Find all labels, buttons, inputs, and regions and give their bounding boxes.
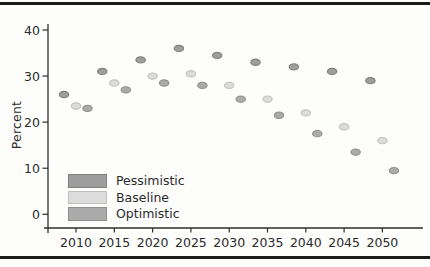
y-axis-title: Percent: [9, 101, 24, 149]
marker-baseline: [186, 71, 195, 77]
legend-swatch-baseline: [68, 191, 107, 205]
marker-baseline: [301, 110, 310, 116]
marker-optimistic: [351, 149, 360, 155]
marker-pessimistic: [174, 45, 183, 51]
legend-item-optimistic: Optimistic: [68, 207, 185, 221]
y-tick-label: 10: [24, 161, 40, 176]
marker-baseline: [339, 124, 348, 130]
marker-baseline: [263, 96, 272, 102]
x-tick-label: 2030: [213, 235, 245, 250]
marker-pessimistic: [98, 68, 107, 74]
legend: Pessimistic Baseline Optimistic: [68, 174, 185, 221]
legend-label-baseline: Baseline: [116, 191, 169, 205]
marker-pessimistic: [59, 91, 68, 97]
marker-optimistic: [236, 96, 245, 102]
y-tick-label: 0: [32, 207, 40, 222]
marker-baseline: [225, 82, 234, 88]
marker-optimistic: [198, 82, 207, 88]
marker-pessimistic: [251, 59, 260, 65]
marker-baseline: [148, 73, 157, 79]
y-tick-label: 20: [24, 115, 40, 130]
chart-plot: 0102030402010201520202025203020352040204…: [0, 0, 430, 267]
x-tick-label: 2035: [252, 235, 284, 250]
x-tick-label: 2020: [137, 235, 169, 250]
x-tick-label: 2045: [328, 235, 360, 250]
marker-pessimistic: [136, 57, 145, 63]
marker-pessimistic: [327, 68, 336, 74]
legend-swatch-optimistic: [68, 207, 107, 221]
marker-baseline: [110, 80, 119, 86]
marker-optimistic: [389, 167, 398, 173]
marker-baseline: [378, 137, 387, 143]
marker-pessimistic: [213, 52, 222, 58]
x-tick-label: 2050: [366, 235, 398, 250]
figure: 0102030402010201520202025203020352040204…: [0, 0, 430, 267]
bottom-rule: [0, 256, 430, 259]
legend-swatch-pessimistic: [68, 174, 107, 188]
marker-baseline: [71, 103, 80, 109]
marker-optimistic: [83, 105, 92, 111]
marker-optimistic: [121, 87, 130, 93]
x-tick-label: 2040: [290, 235, 322, 250]
x-tick-label: 2010: [60, 235, 92, 250]
x-tick-label: 2025: [175, 235, 207, 250]
legend-item-baseline: Baseline: [68, 191, 185, 205]
y-tick-label: 40: [24, 23, 40, 38]
legend-item-pessimistic: Pessimistic: [68, 174, 185, 188]
legend-label-optimistic: Optimistic: [116, 207, 180, 221]
marker-pessimistic: [289, 64, 298, 70]
marker-pessimistic: [366, 78, 375, 84]
x-tick-label: 2015: [98, 235, 130, 250]
legend-label-pessimistic: Pessimistic: [116, 174, 185, 188]
marker-optimistic: [313, 131, 322, 137]
y-tick-label: 30: [24, 69, 40, 84]
marker-optimistic: [159, 80, 168, 86]
marker-optimistic: [274, 112, 283, 118]
